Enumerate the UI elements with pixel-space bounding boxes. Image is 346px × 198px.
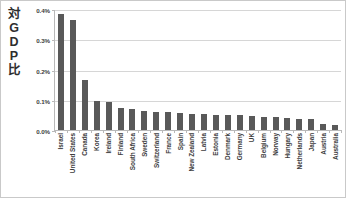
bar[interactable]	[70, 20, 76, 130]
bar-slot	[174, 10, 186, 130]
plot-area	[54, 10, 341, 131]
bar[interactable]	[261, 117, 267, 130]
x-tick-label: Norway	[272, 133, 279, 156]
bar-slot	[270, 10, 282, 130]
bar[interactable]	[296, 119, 302, 130]
x-label-slot: Finland	[114, 133, 126, 197]
bar-slot	[234, 10, 246, 130]
y-tick-label: 0.0%	[36, 128, 50, 135]
bar[interactable]	[189, 114, 195, 130]
x-tick-label: Korea	[92, 133, 99, 151]
bar-slot	[138, 10, 150, 130]
x-axis-tick-labels: IsraelUnited StatesCanadaKoreaIrelandFin…	[54, 133, 341, 197]
bar-slot	[115, 10, 127, 130]
bar[interactable]	[249, 116, 255, 130]
y-axis-title-char-4: 比	[8, 63, 21, 77]
bar[interactable]	[106, 102, 112, 130]
x-tick-label: Netherlands	[296, 133, 303, 169]
x-tick-label: Spain	[176, 133, 183, 150]
x-label-slot: Estonia	[209, 133, 221, 197]
bar-slot	[258, 10, 270, 130]
x-tick-label: United States	[68, 133, 75, 173]
bar[interactable]	[213, 115, 219, 130]
y-tick-label: 0.2%	[36, 67, 50, 74]
x-label-slot: France	[162, 133, 174, 197]
bar[interactable]	[284, 118, 290, 130]
bar-series	[55, 10, 341, 130]
x-tick-label: Australia	[331, 133, 338, 160]
bar[interactable]	[332, 125, 338, 130]
x-label-slot: Latvia	[197, 133, 209, 197]
x-tick-label: Belgium	[260, 133, 267, 158]
y-tick-label: 0.3%	[36, 37, 50, 44]
bar-slot	[79, 10, 91, 130]
bar[interactable]	[320, 124, 326, 130]
x-label-slot: Ireland	[102, 133, 114, 197]
x-label-slot: Japan	[305, 133, 317, 197]
x-tick-mark	[341, 130, 342, 133]
bar-chart: 対 G D P 比 0.0%0.1%0.2%0.3%0.4% IsraelUni…	[0, 0, 346, 198]
y-axis-title-char-2: D	[9, 35, 18, 49]
bar[interactable]	[153, 112, 159, 130]
y-tick-label: 0.1%	[36, 97, 50, 104]
bar-slot	[127, 10, 139, 130]
bar[interactable]	[58, 14, 64, 130]
x-tick-label: Ireland	[104, 133, 111, 154]
bar[interactable]	[141, 111, 147, 130]
bar[interactable]	[308, 119, 314, 130]
x-tick-label: Germany	[236, 133, 243, 160]
bar-slot	[210, 10, 222, 130]
x-label-slot: Norway	[269, 133, 281, 197]
x-tick-label: New Zealand	[188, 133, 195, 172]
x-label-slot: Switzerland	[150, 133, 162, 197]
bar-slot	[329, 10, 341, 130]
bar-slot	[305, 10, 317, 130]
x-tick-label: Sweden	[140, 133, 147, 157]
y-axis-title-char-1: G	[9, 21, 19, 35]
x-label-slot: New Zealand	[185, 133, 197, 197]
x-label-slot: South Africa	[126, 133, 138, 197]
bar[interactable]	[118, 108, 124, 130]
x-label-slot: Canada	[78, 133, 90, 197]
bar-slot	[67, 10, 79, 130]
bar[interactable]	[129, 109, 135, 130]
bar-slot	[162, 10, 174, 130]
bar[interactable]	[225, 115, 231, 130]
x-tick-label: Latvia	[200, 133, 207, 151]
y-axis-title-char-0: 対	[8, 7, 21, 21]
bar-slot	[91, 10, 103, 130]
bar-slot	[186, 10, 198, 130]
bar-slot	[150, 10, 162, 130]
x-tick-label: Switzerland	[152, 133, 159, 168]
bar-slot	[55, 10, 67, 130]
bar[interactable]	[82, 80, 88, 130]
x-tick-label: France	[164, 133, 171, 154]
bar-slot	[246, 10, 258, 130]
bar-slot	[222, 10, 234, 130]
bar-slot	[282, 10, 294, 130]
bar[interactable]	[273, 117, 279, 130]
y-tick-label: 0.4%	[36, 7, 50, 14]
x-tick-label: Hungary	[284, 133, 291, 159]
bar[interactable]	[201, 114, 207, 130]
bar-slot	[103, 10, 115, 130]
bar[interactable]	[94, 101, 100, 130]
bar-slot	[198, 10, 210, 130]
y-axis-title-char-3: P	[10, 49, 18, 63]
bar[interactable]	[165, 112, 171, 130]
x-tick-label: Denmark	[224, 133, 231, 160]
x-label-slot: United States	[66, 133, 78, 197]
x-label-slot: Spain	[174, 133, 186, 197]
bar-slot	[317, 10, 329, 130]
x-tick-label: Austria	[319, 133, 326, 155]
bar[interactable]	[237, 115, 243, 130]
x-tick-label: Japan	[307, 133, 314, 151]
bar[interactable]	[177, 113, 183, 130]
x-label-slot: Netherlands	[293, 133, 305, 197]
y-axis-tick-labels: 0.0%0.1%0.2%0.3%0.4%	[25, 9, 52, 131]
x-label-slot: Hungary	[281, 133, 293, 197]
x-tick-label: South Africa	[128, 133, 135, 170]
x-label-slot: Denmark	[221, 133, 233, 197]
x-label-slot: Austria	[317, 133, 329, 197]
x-label-slot: Germany	[233, 133, 245, 197]
